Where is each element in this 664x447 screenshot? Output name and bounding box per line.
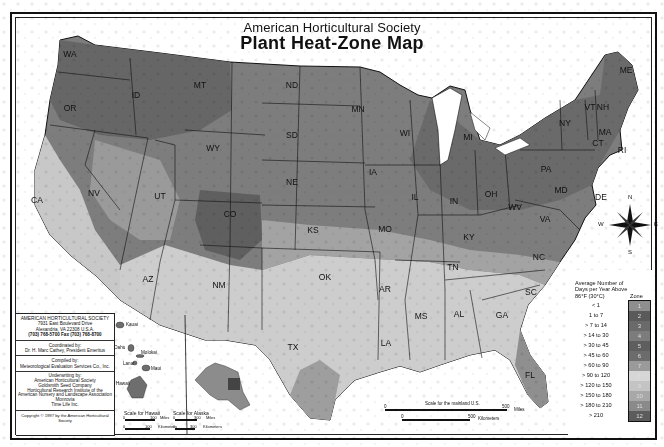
legend-range-label: > 210	[568, 412, 624, 418]
legend-range-label: > 14 to 30	[568, 332, 624, 338]
scale-km-value: 500	[468, 414, 476, 419]
legend-range-label: > 180 to 210	[568, 402, 624, 408]
legend-range-label: 1 to 7	[568, 312, 624, 318]
state-label-mn: MN	[351, 104, 364, 114]
org-section: AMERICAN HORTICULTURAL SOCIETY 7931 East…	[16, 314, 114, 341]
legend-swatch-zone-9: 9	[629, 381, 650, 391]
island-label: Oahu	[114, 345, 125, 350]
state-label-nh: NH	[597, 102, 609, 112]
state-label-mt: MT	[194, 80, 206, 90]
mainland-scale-title: Scale for the mainland U.S.	[425, 401, 480, 406]
scale-zero: 0	[123, 424, 125, 429]
state-label-nv: NV	[88, 188, 100, 198]
state-label-in: IN	[450, 196, 459, 206]
state-label-tn: TN	[447, 262, 458, 272]
phone-fax: (703) 768-5700 Fax (703) 768-8700	[17, 332, 113, 337]
state-label-ms: MS	[415, 311, 428, 321]
underwriter: Time Life Inc.	[17, 403, 113, 408]
state-label-va: VA	[540, 214, 551, 224]
compass-south: S	[628, 249, 632, 255]
state-label-ar: AR	[379, 284, 391, 294]
scale-km-label: Kilometers	[203, 424, 222, 429]
state-label-sc: SC	[525, 287, 537, 297]
island-label: Maui	[151, 366, 161, 371]
legend-zone-label: Zone	[630, 293, 643, 299]
scale-zero: 0	[384, 404, 387, 409]
alaska-scale-title: Scale for Alaska	[173, 410, 209, 416]
state-label-al: AL	[454, 309, 465, 319]
compass-north: N	[628, 194, 632, 200]
state-label-wy: WY	[206, 143, 220, 153]
legend-swatch-zone-10: 10	[629, 391, 650, 401]
mainland-scale-bar-km	[402, 419, 470, 421]
state-label-me: ME	[620, 65, 633, 75]
compass-west: W	[598, 221, 604, 227]
state-label-ks: KS	[307, 225, 319, 235]
legend-range-label: > 150 to 180	[568, 392, 624, 398]
state-label-mo: MO	[378, 224, 392, 234]
compiler-section: Compiled by: Meteorological Evaluation S…	[16, 356, 114, 372]
credits-box: AMERICAN HORTICULTURAL SOCIETY 7931 East…	[16, 313, 115, 436]
state-label-ca: CA	[31, 195, 43, 205]
legend-swatch-zone-2: 2	[629, 311, 650, 321]
state-label-az: AZ	[143, 274, 154, 284]
scale-km-value: 300	[190, 424, 197, 429]
scale-zero: 0	[123, 415, 125, 420]
legend-swatch-zone-4: 4	[629, 331, 650, 341]
scale-miles-value: 100	[150, 415, 157, 420]
legend-range-label: > 120 to 150	[568, 382, 624, 388]
scale-miles-label: Miles	[514, 407, 525, 412]
zone-legend: Average Number of Days per Year Above 86…	[568, 270, 652, 435]
legend-range-label: > 60 to 90	[568, 362, 624, 368]
compass-east: E	[654, 221, 658, 227]
legend-swatch-zone-7: 7	[629, 361, 650, 371]
scale-zero: 0	[173, 424, 175, 429]
state-label-ok: OK	[319, 272, 332, 282]
legend-range-label: > 45 to 60	[568, 352, 624, 358]
state-label-nd: ND	[286, 80, 298, 90]
state-label-ut: UT	[154, 191, 165, 201]
mainland-scale: Scale for the mainland U.S. 0 500 Miles …	[380, 398, 530, 428]
legend-range-label: > 30 to 45	[568, 342, 624, 348]
legend-swatches: 123456789101112	[628, 300, 651, 422]
legend-swatch-zone-6: 6	[629, 351, 650, 361]
copyright: Copyright © 1997 by the American Horticu…	[16, 411, 114, 426]
mainland-scale-bar-miles	[385, 409, 507, 411]
scale-miles-value: 500	[502, 404, 510, 409]
underwriting-section: Underwriting by: American Horticultural …	[16, 372, 114, 411]
state-label-sd: SD	[286, 130, 298, 140]
compass-rose: N S E W	[605, 200, 655, 254]
state-label-mi: MI	[463, 132, 472, 142]
legend-swatch-zone-8: 8	[629, 371, 650, 381]
scale-miles-value: 300	[194, 415, 201, 420]
scale-miles-label: Miles	[206, 415, 215, 420]
state-label-pa: PA	[541, 164, 552, 174]
state-label-ia: IA	[369, 167, 377, 177]
legend-range-label: < 1	[568, 302, 624, 308]
state-label-co: CO	[224, 209, 237, 219]
legend-heading: Average Number of Days per Year Above 86…	[575, 280, 630, 299]
scale-zero: 0	[173, 415, 175, 420]
state-label-wi: WI	[400, 128, 410, 138]
legend-range-label: > 7 to 14	[568, 322, 624, 328]
scale-km-value: 100	[145, 424, 152, 429]
scale-miles-label: Miles	[160, 415, 169, 420]
state-label-nc: NC	[533, 252, 545, 262]
state-label-vt: VT	[585, 102, 596, 112]
state-label-ny: NY	[559, 118, 571, 128]
state-label-nm: NM	[212, 280, 225, 290]
legend-swatch-zone-1: 1	[629, 301, 650, 311]
state-label-or: OR	[64, 103, 77, 113]
scale-km-label: Kilometers	[478, 416, 499, 421]
map-title: Plant Heat-Zone Map	[0, 33, 664, 54]
legend-swatch-zone-3: 3	[629, 321, 650, 331]
island-label: Molokai	[141, 350, 157, 355]
state-label-id: ID	[132, 90, 141, 100]
state-label-la: LA	[381, 338, 392, 348]
island-label: Hawaii	[116, 381, 130, 386]
state-label-ne: NE	[286, 177, 298, 187]
scale-zero: 0	[401, 414, 404, 419]
legend-swatch-zone-12: 12	[629, 411, 650, 421]
state-label-md: MD	[554, 185, 567, 195]
coordinator-section: Coordinated by: Dr. H. Marc Cathey, Pres…	[16, 341, 114, 357]
